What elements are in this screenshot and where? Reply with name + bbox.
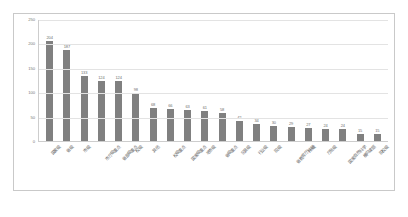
bar-rect[interactable] xyxy=(150,108,157,141)
bar-value-label: 27 xyxy=(306,123,310,127)
y-axis: 050100150200250 xyxy=(14,20,37,142)
bar-rect[interactable] xyxy=(253,124,260,141)
x-axis-tick: 所级 xyxy=(299,144,316,190)
bar-rect[interactable] xyxy=(339,129,346,141)
gridline xyxy=(39,93,388,94)
bar-item[interactable]: 124 xyxy=(110,20,127,141)
bar-item[interactable]: 30 xyxy=(265,20,282,141)
bar-item[interactable]: 204 xyxy=(41,20,58,141)
bar-value-label: 61 xyxy=(203,106,207,110)
bar-series: 2041871331241249868666361584234302927242… xyxy=(39,20,388,141)
bar-item[interactable]: 66 xyxy=(162,20,179,141)
x-axis-tick: 省级 xyxy=(57,144,74,190)
x-axis-tick: 市厅级重点 xyxy=(92,144,109,190)
gridline xyxy=(39,69,388,70)
bar-rect[interactable] xyxy=(98,81,105,142)
plot-area: 2041871331241249868666361584234302927242… xyxy=(38,20,388,142)
x-axis-tick: 校级 xyxy=(126,144,143,190)
bar-value-label: 68 xyxy=(151,103,155,107)
y-axis-tick-label: 50 xyxy=(31,115,35,119)
bar-item[interactable]: 63 xyxy=(179,20,196,141)
x-axis-tick: 国家级重点 xyxy=(178,144,195,190)
bar-item[interactable]: 34 xyxy=(248,20,265,141)
bar-value-label: 58 xyxy=(220,108,224,112)
bar-rect[interactable] xyxy=(374,134,381,141)
x-axis-tick: 省教育厅科研 xyxy=(282,144,299,190)
bar-rect[interactable] xyxy=(270,126,277,141)
y-axis-tick-label: 100 xyxy=(28,91,35,95)
x-axis-tick: 国家自然科学 xyxy=(334,144,351,190)
x-axis-tick: 院校级 xyxy=(369,144,386,190)
x-axis-tick: 市级 xyxy=(75,144,92,190)
bar-rect[interactable] xyxy=(81,76,88,141)
bar-item[interactable]: 187 xyxy=(58,20,75,141)
bar-item[interactable]: 98 xyxy=(127,20,144,141)
x-axis-tick: 其他 xyxy=(144,144,161,190)
bar-item[interactable]: 24 xyxy=(334,20,351,141)
bar-value-label: 66 xyxy=(168,104,172,108)
bar-value-label: 204 xyxy=(46,36,52,40)
bar-item[interactable]: 58 xyxy=(214,20,231,141)
x-axis-tick: 院级 xyxy=(265,144,282,190)
x-axis: 国家级省级市级市厅级重点省部级重点校级其他校级重点国家级重点地市级省级重点区县级… xyxy=(38,144,388,190)
bar-item[interactable]: 15 xyxy=(352,20,369,141)
bar-rect[interactable] xyxy=(305,128,312,141)
bar-value-label: 30 xyxy=(272,121,276,125)
y-axis-tick-label: 250 xyxy=(28,18,35,22)
bar-rect[interactable] xyxy=(201,111,208,141)
bar-item[interactable]: 27 xyxy=(300,20,317,141)
x-axis-tick: 厅局级 xyxy=(317,144,334,190)
bar-item[interactable]: 133 xyxy=(76,20,93,141)
bar-value-label: 124 xyxy=(98,76,104,80)
bar-item[interactable]: 61 xyxy=(196,20,213,141)
bar-rect[interactable] xyxy=(167,109,174,141)
bar-value-label: 24 xyxy=(324,124,328,128)
chart-plot-wrapper: 050100150200250 204187133124124986866636… xyxy=(14,14,394,190)
x-axis-tick: 地市级 xyxy=(196,144,213,190)
bar-item[interactable]: 24 xyxy=(317,20,334,141)
bar-item[interactable]: 15 xyxy=(369,20,386,141)
bar-value-label: 124 xyxy=(115,76,121,80)
bar-rect[interactable] xyxy=(288,127,295,141)
bar-rect[interactable] xyxy=(322,129,329,141)
bar-item[interactable]: 42 xyxy=(231,20,248,141)
gridline xyxy=(39,20,388,21)
bar-item[interactable]: 29 xyxy=(283,20,300,141)
bar-value-label: 24 xyxy=(341,124,345,128)
x-axis-tick: 省部级重点 xyxy=(109,144,126,190)
x-axis-tick: 国家级 xyxy=(40,144,57,190)
bar-rect[interactable] xyxy=(63,50,70,141)
x-axis-tick: 区县级 xyxy=(230,144,247,190)
x-axis-tick: 横向课题 xyxy=(351,144,368,190)
bar-rect[interactable] xyxy=(357,134,364,141)
y-axis-tick-label: 200 xyxy=(28,42,35,46)
bar-rect[interactable] xyxy=(115,81,122,142)
bar-rect[interactable] xyxy=(46,41,53,141)
bar-value-label: 133 xyxy=(81,71,87,75)
bar-value-label: 15 xyxy=(375,129,379,133)
bar-item[interactable]: 68 xyxy=(145,20,162,141)
bar-value-label: 29 xyxy=(289,122,293,126)
y-axis-tick-label: 0 xyxy=(33,140,35,144)
chart-container: 050100150200250 204187133124124986866636… xyxy=(13,13,395,191)
gridline xyxy=(39,118,388,119)
y-axis-tick-label: 150 xyxy=(28,67,35,71)
x-axis-tick-label: 院校级 xyxy=(379,145,391,157)
bar-rect[interactable] xyxy=(236,121,243,141)
x-axis-tick: 行业级 xyxy=(248,144,265,190)
bar-value-label: 15 xyxy=(358,129,362,133)
x-axis-tick: 校级重点 xyxy=(161,144,178,190)
bar-value-label: 34 xyxy=(255,119,259,123)
x-axis-tick: 省级重点 xyxy=(213,144,230,190)
bar-item[interactable]: 124 xyxy=(93,20,110,141)
bar-rect[interactable] xyxy=(184,110,191,141)
gridline xyxy=(39,44,388,45)
bar-value-label: 63 xyxy=(186,105,190,109)
bar-value-label: 98 xyxy=(134,88,138,92)
